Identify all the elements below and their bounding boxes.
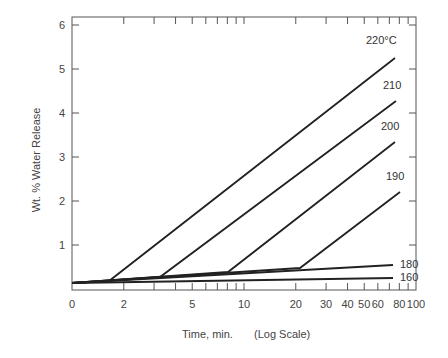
x-tick-label: 5 (189, 298, 195, 310)
x-tick-label: 2 (121, 298, 127, 310)
series-label-180: 180 (400, 258, 418, 270)
y-tick-label: 5 (59, 63, 65, 75)
x-tick-label: 60 (372, 298, 384, 310)
series-label-200: 200 (381, 120, 399, 132)
y-axis-title: Wt. % Water Release (30, 108, 42, 213)
y-tick-label: 6 (59, 19, 65, 31)
x-tick-label: 20 (290, 298, 302, 310)
x-axis-scale-note: (Log Scale) (254, 328, 310, 340)
x-tick-label: 40 (341, 298, 353, 310)
x-tick-label: 0 (69, 298, 75, 310)
series-label-160: 160 (400, 271, 418, 283)
series-label-190: 190 (386, 170, 404, 182)
x-tick-label: 100 (407, 298, 425, 310)
series-lines (72, 58, 400, 283)
y-tick-label: 1 (59, 239, 65, 251)
plot-frame (72, 17, 416, 290)
y-tick-label: 2 (59, 195, 65, 207)
series-line-190 (72, 192, 400, 283)
x-axis-title: Time, min. (182, 328, 233, 340)
y-tick-label: 3 (59, 151, 65, 163)
y-tick-label: 4 (59, 107, 65, 119)
series-label-220: 220°C (366, 34, 397, 46)
y-axis-ticks: 123456 (59, 19, 416, 251)
x-tick-label: 50 (358, 298, 370, 310)
x-tick-label: 10 (238, 298, 250, 310)
series-label-210: 210 (383, 79, 401, 91)
series-line-210 (72, 101, 396, 283)
series-line-220 (72, 58, 395, 283)
water-release-chart: 123456 02510203040506080100 220°C2102001… (0, 0, 448, 358)
series-line-200 (72, 142, 395, 283)
x-tick-label: 30 (320, 298, 332, 310)
x-tick-label: 80 (393, 298, 405, 310)
